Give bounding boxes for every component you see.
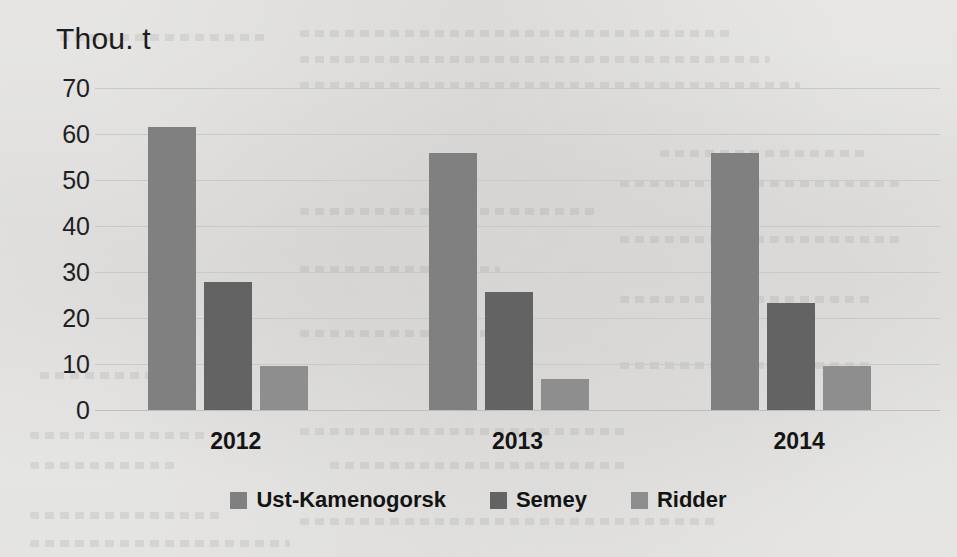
bar bbox=[485, 292, 533, 410]
bar-group bbox=[377, 88, 659, 410]
y-axis-tick-label: 50 bbox=[44, 166, 90, 195]
ghost-text bbox=[300, 518, 720, 525]
ghost-text bbox=[300, 30, 730, 37]
chart-legend: Ust-KamenogorskSemeyRidder bbox=[0, 487, 957, 513]
gridline bbox=[95, 410, 940, 411]
x-axis-tick-label: 2012 bbox=[95, 428, 377, 455]
y-axis-unit-label: Thou. t bbox=[56, 22, 151, 56]
ghost-text bbox=[30, 540, 290, 547]
legend-label: Ridder bbox=[657, 487, 727, 513]
x-axis-tick-label: 2013 bbox=[377, 428, 659, 455]
y-axis-tick-label: 30 bbox=[44, 258, 90, 287]
y-axis-tick-label: 60 bbox=[44, 120, 90, 149]
bar bbox=[823, 366, 871, 410]
x-axis: 201220132014 bbox=[95, 412, 940, 458]
bar bbox=[767, 303, 815, 410]
y-axis-tick-label: 40 bbox=[44, 212, 90, 241]
bar bbox=[148, 127, 196, 410]
y-axis-tick-label: 20 bbox=[44, 304, 90, 333]
bar bbox=[541, 379, 589, 410]
y-axis-tick-label: 70 bbox=[44, 74, 90, 103]
legend-swatch-icon bbox=[490, 492, 507, 509]
legend-swatch-icon bbox=[230, 492, 247, 509]
x-axis-tick-label: 2014 bbox=[658, 428, 940, 455]
ghost-text bbox=[300, 56, 770, 63]
bar-group bbox=[95, 88, 377, 410]
legend-label: Ust-Kamenogorsk bbox=[256, 487, 445, 513]
ghost-text bbox=[330, 462, 630, 469]
legend-label: Semey bbox=[516, 487, 587, 513]
legend-item[interactable]: Ust-Kamenogorsk bbox=[230, 487, 445, 513]
bar-group bbox=[658, 88, 940, 410]
legend-swatch-icon bbox=[631, 492, 648, 509]
bar bbox=[711, 153, 759, 410]
bar bbox=[204, 282, 252, 410]
ghost-text bbox=[30, 462, 180, 469]
legend-item[interactable]: Semey bbox=[490, 487, 587, 513]
bar bbox=[429, 153, 477, 410]
ghost-text bbox=[30, 512, 220, 519]
legend-item[interactable]: Ridder bbox=[631, 487, 727, 513]
bar-series-container bbox=[95, 88, 940, 410]
chart-page: Thou. t 706050403020100 201220132014 Ust… bbox=[0, 0, 957, 557]
bar bbox=[260, 366, 308, 410]
y-axis-tick-label: 10 bbox=[44, 350, 90, 379]
y-axis-tick-label: 0 bbox=[44, 396, 90, 425]
y-axis: 706050403020100 bbox=[38, 88, 90, 410]
